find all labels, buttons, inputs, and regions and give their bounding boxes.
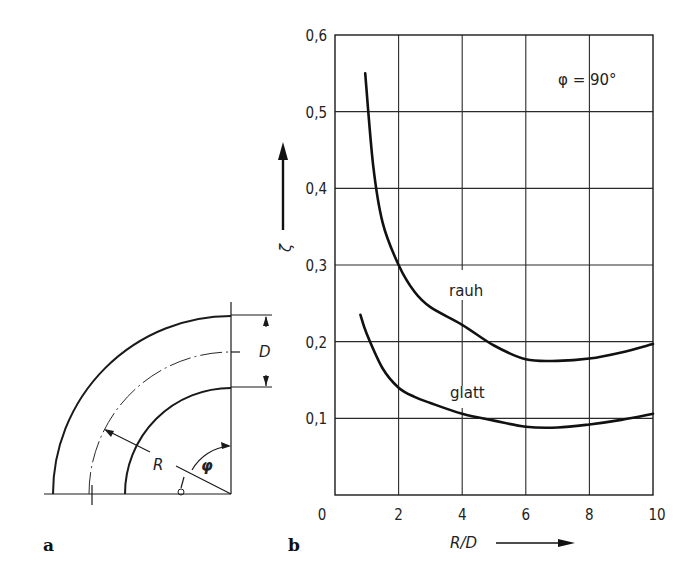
x-tick-label: 6 [522, 506, 531, 524]
d-label: D [259, 343, 271, 361]
x-axis-label: R/D [450, 534, 477, 552]
y-tick-labels: 0,10,20,30,40,50,6 [306, 27, 327, 428]
x-tick-label: 4 [458, 506, 467, 524]
x-tick-label: 10 [648, 506, 665, 524]
x-axis-arrow-icon [558, 539, 575, 547]
pipe-bend-diagram: D R φ [44, 302, 272, 505]
x-tick-label: 0 [318, 506, 327, 524]
series-label-glatt: glatt [450, 384, 485, 402]
figure: D R φ a 0,10,20,30,40,50,6 0246810 rauh … [0, 0, 696, 561]
y-tick-label: 0,5 [306, 104, 327, 122]
panel-b-label: b [288, 535, 300, 555]
y-axis-arrow-icon [278, 142, 288, 160]
series-label-rauh: rauh [449, 282, 483, 300]
phi-arrow-icon [221, 442, 231, 449]
phi-leader [181, 477, 184, 488]
inner-wall-arc [125, 388, 231, 494]
series-curves [360, 73, 653, 427]
y-tick-label: 0,3 [306, 257, 327, 275]
y-tick-label: 0,4 [306, 180, 327, 198]
x-tick-label: 2 [394, 506, 403, 524]
x-tick-label: 8 [585, 506, 594, 524]
gridlines [335, 35, 653, 495]
panel-a-label: a [43, 535, 54, 555]
phi-label: φ [201, 457, 213, 475]
curve-glatt [360, 315, 653, 428]
y-tick-label: 0,6 [306, 27, 327, 45]
r-label: R [153, 456, 163, 474]
phi-annotation: φ = 90° [558, 71, 617, 89]
y-tick-label: 0,1 [306, 410, 327, 428]
loss-coefficient-chart: 0,10,20,30,40,50,6 0246810 rauh glatt φ … [277, 27, 666, 552]
d-arrow-up-icon [263, 316, 269, 326]
y-tick-label: 0,2 [306, 334, 327, 352]
y-axis-label: ζ [277, 243, 295, 253]
annotation-gap [594, 42, 602, 98]
curve-rauh [365, 73, 653, 361]
r-arrow-icon [104, 429, 114, 437]
d-arrow-down-icon [263, 376, 269, 386]
x-tick-labels: 0246810 [318, 506, 666, 524]
